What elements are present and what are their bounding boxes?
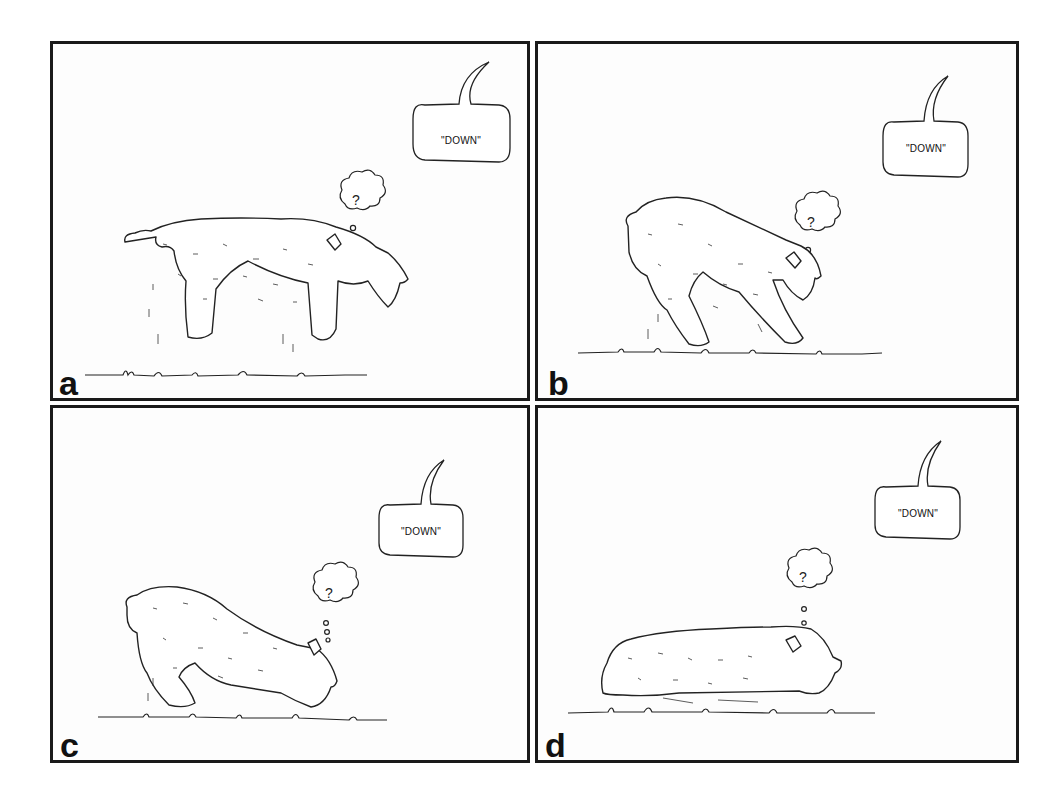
svg-text:?: ? <box>352 192 360 208</box>
speech-bubble-icon <box>875 441 960 539</box>
panel-label: d <box>545 728 566 762</box>
panel-label: a <box>59 366 78 400</box>
speech-bubble-icon <box>379 460 463 557</box>
panel-d: ? "DOWN" d <box>535 405 1019 763</box>
speech-bubble-text: "DOWN" <box>401 526 441 537</box>
speech-bubble-text: "DOWN" <box>441 135 481 146</box>
dog-icon <box>626 197 821 345</box>
panel-c: ? "DOWN" c <box>50 405 530 763</box>
dog-lying-down-illustration: ? <box>538 408 1022 766</box>
speech-bubble-text: "DOWN" <box>906 143 946 154</box>
speech-bubble-text: "DOWN" <box>898 508 938 519</box>
speech-bubble-icon <box>413 62 510 162</box>
speech-bubble-icon <box>883 76 968 177</box>
panel-a: ? "DOWN" a <box>50 41 530 401</box>
dog-icon <box>126 587 337 707</box>
thought-bubble-icon <box>787 548 832 625</box>
svg-text:?: ? <box>807 214 815 230</box>
dog-play-bow-illustration: ? <box>538 44 1022 404</box>
panel-label: b <box>548 366 569 400</box>
svg-text:?: ? <box>325 585 333 601</box>
svg-text:?: ? <box>799 569 807 585</box>
panel-b: ? "DOWN" b <box>535 41 1019 401</box>
dog-standing-illustration: ? <box>53 44 533 404</box>
thought-bubble-icon <box>340 170 385 240</box>
dog-icon <box>125 218 408 340</box>
panel-label: c <box>60 728 79 762</box>
dog-crouching-illustration: ? <box>53 408 533 766</box>
thought-bubble-icon <box>313 562 358 642</box>
dog-icon <box>602 626 842 695</box>
